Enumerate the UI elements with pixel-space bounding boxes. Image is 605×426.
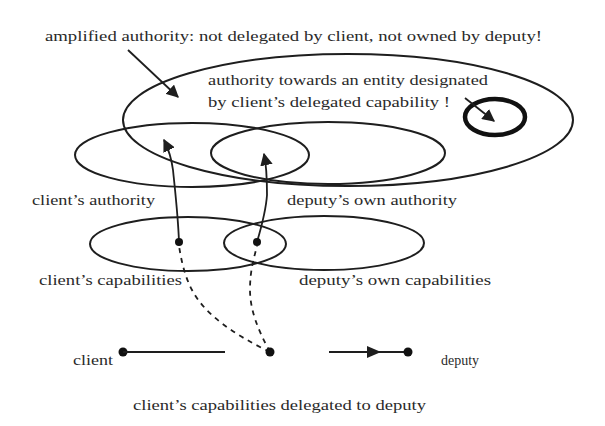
client-authority-label: client’s authority [32,192,156,208]
deputy-node-label: deputy [441,352,479,368]
delegation-caption: client’s capabilities delegated to deput… [133,397,427,413]
confused-deputy-diagram: amplified authority: not delegated by cl… [0,0,605,426]
deputy-node-dot [404,348,413,357]
deputy-capabilities-label: deputy’s own capabilities [299,272,491,288]
designated-entity-annotation-line1: authority towards an entity designated [208,72,489,88]
deputy-authority-label: deputy’s own authority [287,192,458,208]
amplified-authority-arrow [128,50,178,97]
client-capabilities-label: client’s capabilities [39,272,182,288]
delegated-capability-dot [253,238,261,246]
client-capability-dot [175,238,183,246]
amplified-authority-annotation: amplified authority: not delegated by cl… [45,28,542,44]
designated-entity-annotation-line2: by client’s delegated capability ! [208,94,450,110]
deputy-edge-arrowhead-icon [367,346,381,358]
deputy-authority-ellipse [211,122,445,184]
delegated-capability-to-authority-arrow [257,154,267,242]
client-node-label: client [73,352,114,368]
client-capability-to-authority-arrow [164,140,179,242]
client-authority-ellipse [75,123,309,187]
delegated-capability-node-dot [266,348,275,357]
